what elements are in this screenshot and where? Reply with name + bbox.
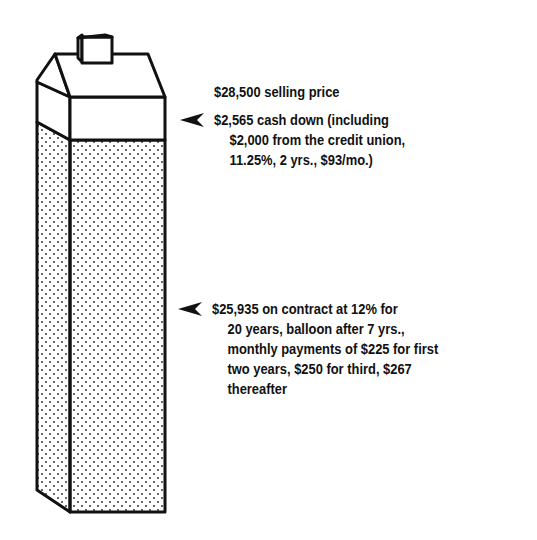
arrowhead-left-icon bbox=[178, 301, 204, 317]
contract-line-3: monthly payments of $225 for first bbox=[212, 339, 438, 359]
contract-line-1: $25,935 on contract at 12% for bbox=[212, 299, 438, 319]
cash-down-line-3: 11.25%, 2 yrs., $93/mo.) bbox=[214, 150, 405, 170]
cash-down-line-2: $2,000 from the credit union, bbox=[214, 130, 405, 150]
contract-line-5: thereafter bbox=[212, 379, 438, 399]
cash-down-line-1: $2,565 cash down (including bbox=[214, 110, 405, 130]
chimney-front bbox=[82, 37, 112, 63]
selling-price-text: $28,500 selling price bbox=[214, 82, 339, 102]
contract-portion-front bbox=[70, 140, 165, 512]
cash-down-portion-front bbox=[70, 97, 165, 140]
contract-portion-side bbox=[37, 122, 70, 512]
selling-price-label: $28,500 selling price bbox=[214, 82, 339, 102]
cash-down-label: $2,565 cash down (including $2,000 from … bbox=[214, 110, 405, 170]
contract-line-2: 20 years, balloon after 7 yrs., bbox=[212, 319, 438, 339]
contract-label: $25,935 on contract at 12% for 20 years,… bbox=[212, 299, 438, 399]
house-illustration bbox=[0, 0, 537, 540]
arrowhead-left-icon bbox=[180, 112, 206, 128]
contract-line-4: two years, $250 for third, $267 bbox=[212, 359, 438, 379]
